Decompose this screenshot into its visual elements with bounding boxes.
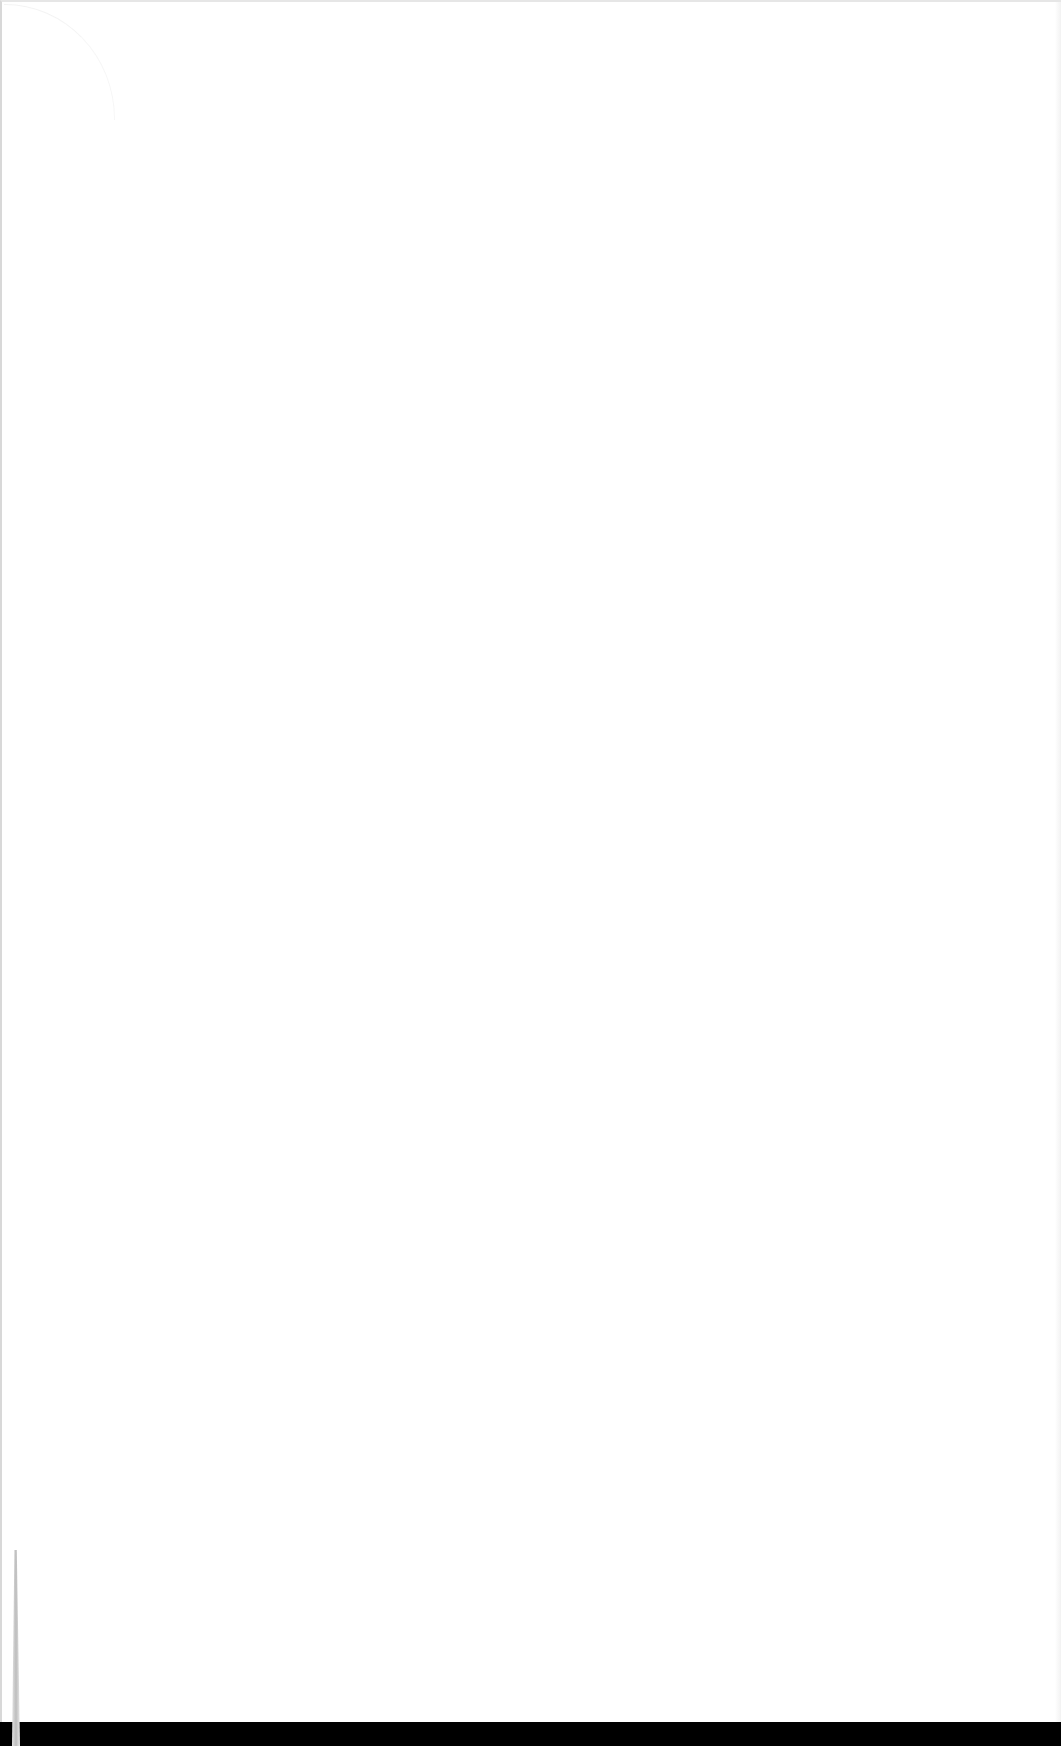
blank-page bbox=[0, 0, 1061, 1722]
page-fold-mark bbox=[4, 4, 115, 120]
page-right-edge bbox=[1055, 2, 1061, 1724]
scanner-background-strip bbox=[0, 1722, 1061, 1746]
